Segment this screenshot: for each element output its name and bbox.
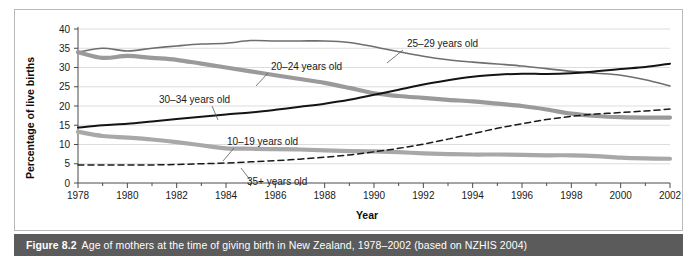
y-tick-5: 5 xyxy=(64,158,70,169)
series-label-4: 35+ years old xyxy=(247,176,307,187)
x-tick-2000: 2000 xyxy=(610,190,633,201)
y-tick-15: 15 xyxy=(59,120,71,131)
series-label-0: 25–29 years old xyxy=(407,38,478,49)
x-tick-1988: 1988 xyxy=(314,190,337,201)
series-annotations: 25–29 years old20–24 years old30–34 year… xyxy=(159,38,478,187)
x-tick-2002: 2002 xyxy=(659,190,682,201)
y-tick-30: 30 xyxy=(59,62,71,73)
series-line-1 xyxy=(78,52,670,117)
x-tick-1984: 1984 xyxy=(215,190,238,201)
x-tick-1990: 1990 xyxy=(363,190,386,201)
chart-frame: 0510152025303540 19781980198219841986198… xyxy=(14,9,683,231)
x-tick-1980: 1980 xyxy=(116,190,139,201)
line-chart: 0510152025303540 19781980198219841986198… xyxy=(15,10,684,224)
y-tick-0: 0 xyxy=(64,178,70,189)
series-line-0 xyxy=(78,40,670,86)
annotation-leader-2 xyxy=(212,106,218,120)
series-line-3 xyxy=(78,132,670,159)
x-axis-title: Year xyxy=(356,209,378,221)
x-axis-tick-labels: 1978198019821984198619881990199219941996… xyxy=(67,190,682,201)
figure-caption-bar: Figure 8.2 Age of mothers at the time of… xyxy=(14,234,683,256)
annotation-leader-0 xyxy=(387,50,403,63)
y-tick-25: 25 xyxy=(59,81,71,92)
x-tick-1992: 1992 xyxy=(412,190,435,201)
y-tick-40: 40 xyxy=(59,24,71,35)
x-tick-1986: 1986 xyxy=(264,190,287,201)
x-tick-1994: 1994 xyxy=(462,190,485,201)
y-axis-title: Percentage of live births xyxy=(24,57,36,179)
x-tick-1978: 1978 xyxy=(67,190,90,201)
y-tick-10: 10 xyxy=(59,139,71,150)
y-axis-tick-labels: 0510152025303540 xyxy=(59,24,71,189)
x-tick-1982: 1982 xyxy=(166,190,189,201)
series-label-3: 10–19 years old xyxy=(227,136,298,147)
y-tick-35: 35 xyxy=(59,43,71,54)
figure-caption-number: Figure 8.2 xyxy=(26,239,77,251)
series-label-1: 20–24 years old xyxy=(271,61,342,72)
series-label-2: 30–34 years old xyxy=(159,94,230,105)
x-tick-1996: 1996 xyxy=(511,190,534,201)
y-tick-20: 20 xyxy=(59,101,71,112)
x-tick-1998: 1998 xyxy=(560,190,583,201)
figure-caption-text: Age of mothers at the time of giving bir… xyxy=(82,239,528,251)
figure-container: 0510152025303540 19781980198219841986198… xyxy=(0,0,698,269)
